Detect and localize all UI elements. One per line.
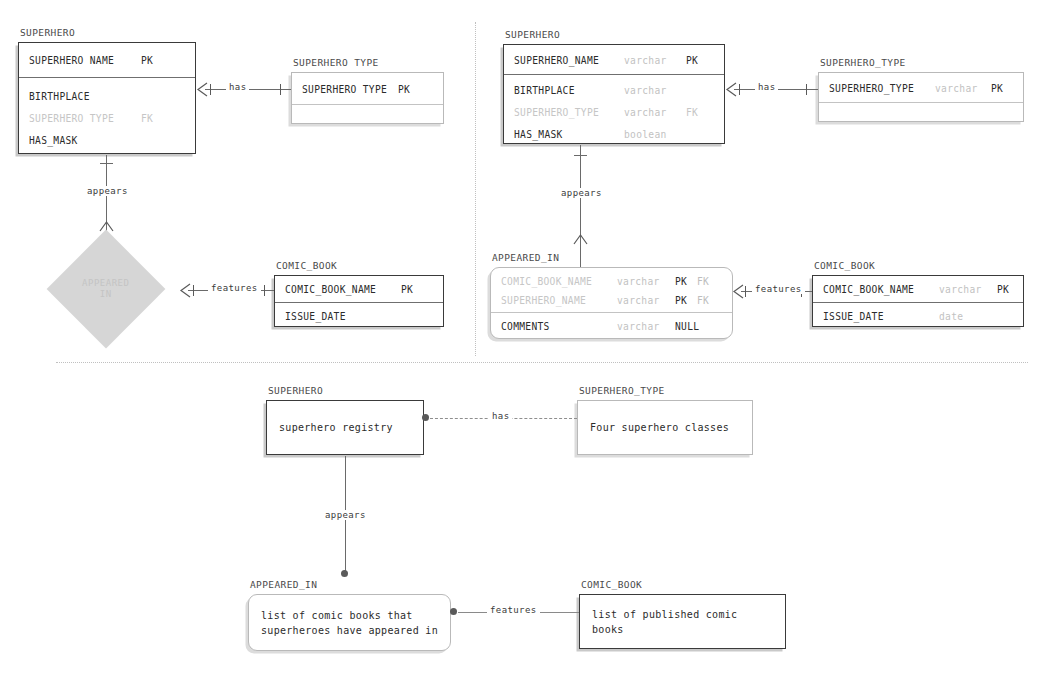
attribute-row[interactable]: SUPERHERO_NAME varchar PK FK bbox=[491, 291, 732, 310]
logical-superhero-caption: SUPERHERO bbox=[505, 29, 560, 40]
attribute-name: SUPERHERO TYPE bbox=[302, 84, 398, 95]
descriptive-appears-endpoint-dot bbox=[341, 570, 348, 577]
conceptual-features-label: features bbox=[208, 283, 261, 293]
logical-appeared-in-attr-zone: COMMENTS varchar NULL bbox=[491, 313, 732, 336]
attribute-row[interactable]: ISSUE_DATE date bbox=[813, 305, 1023, 327]
attribute-row[interactable]: COMIC_BOOK_NAME PK bbox=[275, 278, 443, 300]
descriptive-superhero-type-text: Four superhero classes bbox=[578, 401, 752, 454]
attribute-row[interactable]: BIRTHPLACE bbox=[19, 85, 195, 107]
one-tick-icon bbox=[280, 84, 281, 95]
crowfoot-icon bbox=[196, 81, 208, 98]
logical-appears-label: appears bbox=[558, 188, 605, 198]
logical-superhero-type-entity[interactable]: SUPERHERO_TYPE SUPERHERO_TYPE varchar PK bbox=[818, 72, 1024, 122]
descriptive-superhero-entity[interactable]: SUPERHERO superhero registry bbox=[266, 400, 424, 455]
attribute-row[interactable]: BIRTHPLACE varchar bbox=[504, 79, 724, 101]
descriptive-appeared-in-caption: APPEARED_IN bbox=[250, 579, 317, 590]
logical-appeared-in-caption: APPEARED_IN bbox=[492, 252, 559, 263]
attribute-row[interactable]: COMIC_BOOK_NAME varchar PK FK bbox=[491, 272, 732, 291]
conceptual-appeared-in-diamond[interactable]: APPEARED IN bbox=[47, 230, 166, 349]
conceptual-superhero-type-entity[interactable]: SUPERHERO TYPE SUPERHERO TYPE PK bbox=[291, 72, 444, 124]
attribute-row[interactable]: COMMENTS varchar NULL bbox=[491, 317, 732, 336]
one-tick-icon bbox=[745, 286, 746, 297]
conceptual-superhero-entity[interactable]: SUPERHERO SUPERHERO NAME PK BIRTHPLACE S… bbox=[18, 42, 196, 154]
descriptive-appears-label: appears bbox=[322, 510, 369, 520]
attribute-name: BIRTHPLACE bbox=[29, 91, 141, 102]
conceptual-comic-book-entity[interactable]: COMIC_BOOK COMIC_BOOK_NAME PK ISSUE_DATE bbox=[274, 275, 444, 327]
attribute-row[interactable]: SUPERHERO NAME PK bbox=[19, 49, 195, 71]
logical-superhero-entity[interactable]: SUPERHERO SUPERHERO_NAME varchar PK BIRT… bbox=[503, 44, 725, 144]
attribute-row[interactable]: ISSUE_DATE bbox=[275, 305, 443, 327]
descriptive-comic-book-text: list of published comic books bbox=[580, 595, 785, 648]
attribute-row[interactable]: HAS_MASK bbox=[19, 129, 195, 151]
attribute-name: SUPERHERO TYPE bbox=[29, 113, 141, 124]
panel-horizontal-divider bbox=[56, 362, 1028, 363]
descriptive-superhero-text: superhero registry bbox=[267, 401, 423, 454]
attribute-type: varchar bbox=[624, 85, 686, 96]
attribute-key: PK bbox=[686, 55, 698, 66]
logical-superhero-type-pk-zone: SUPERHERO_TYPE varchar PK bbox=[819, 73, 1023, 103]
attribute-name: HAS_MASK bbox=[514, 129, 624, 140]
attribute-name: SUPERHERO_TYPE bbox=[514, 107, 624, 118]
logical-appears-connector-line bbox=[580, 145, 581, 269]
one-tick-icon bbox=[574, 155, 587, 156]
attribute-type: boolean bbox=[624, 129, 686, 140]
attribute-row[interactable]: SUPERHERO_TYPE varchar FK bbox=[504, 101, 724, 123]
attribute-name: SUPERHERO_NAME bbox=[501, 295, 617, 306]
logical-superhero-pk-zone: SUPERHERO_NAME varchar PK bbox=[504, 45, 724, 75]
attribute-row[interactable]: COMIC_BOOK_NAME varchar PK bbox=[813, 278, 1023, 300]
attribute-name: COMIC_BOOK_NAME bbox=[823, 284, 939, 295]
attribute-name: BIRTHPLACE bbox=[514, 85, 624, 96]
one-tick-icon bbox=[210, 84, 211, 95]
attribute-name: COMIC_BOOK_NAME bbox=[501, 276, 617, 287]
crowfoot-icon bbox=[572, 232, 589, 245]
conceptual-comic-book-attr-zone: ISSUE_DATE bbox=[275, 303, 443, 327]
conceptual-superhero-type-caption: SUPERHERO TYPE bbox=[293, 57, 379, 68]
attribute-row[interactable]: SUPERHERO_NAME varchar PK bbox=[504, 49, 724, 71]
logical-superhero-attr-zone: BIRTHPLACE varchar SUPERHERO_TYPE varcha… bbox=[504, 75, 724, 145]
attribute-type: varchar bbox=[935, 83, 991, 94]
logical-comic-book-entity[interactable]: COMIC_BOOK COMIC_BOOK_NAME varchar PK IS… bbox=[812, 275, 1024, 327]
conceptual-comic-book-caption: COMIC_BOOK bbox=[276, 260, 337, 271]
logical-superhero-type-caption: SUPERHERO_TYPE bbox=[820, 57, 906, 68]
attribute-type: varchar bbox=[617, 321, 675, 332]
descriptive-appeared-in-text: list of comic books that superheroes hav… bbox=[249, 595, 450, 650]
attribute-name: SUPERHERO NAME bbox=[29, 55, 141, 66]
attribute-name: COMIC_BOOK_NAME bbox=[285, 284, 401, 295]
attribute-row[interactable]: SUPERHERO_TYPE varchar PK bbox=[819, 77, 1023, 99]
attribute-key: PK bbox=[398, 84, 410, 95]
attribute-row[interactable]: SUPERHERO TYPE PK bbox=[292, 78, 443, 100]
descriptive-superhero-type-caption: SUPERHERO_TYPE bbox=[579, 385, 665, 396]
descriptive-superhero-type-entity[interactable]: SUPERHERO_TYPE Four superhero classes bbox=[577, 400, 753, 455]
descriptive-has-endpoint-dot bbox=[422, 414, 429, 421]
attribute-key: FK bbox=[686, 107, 698, 118]
attribute-name: SUPERHERO_TYPE bbox=[829, 83, 935, 94]
attribute-name: ISSUE_DATE bbox=[285, 311, 401, 322]
descriptive-appeared-in-entity[interactable]: APPEARED_IN list of comic books that sup… bbox=[248, 594, 451, 651]
descriptive-has-label: has bbox=[489, 411, 512, 421]
attribute-row[interactable]: SUPERHERO TYPE FK bbox=[19, 107, 195, 129]
logical-comic-book-pk-zone: COMIC_BOOK_NAME varchar PK bbox=[813, 276, 1023, 303]
attribute-type: varchar bbox=[939, 284, 997, 295]
attribute-name: SUPERHERO_NAME bbox=[514, 55, 624, 66]
er-diagram-canvas: SUPERHERO SUPERHERO NAME PK BIRTHPLACE S… bbox=[0, 0, 1046, 690]
attribute-key: PK bbox=[997, 284, 1009, 295]
attribute-key: PK bbox=[991, 83, 1003, 94]
logical-has-label: has bbox=[755, 82, 778, 92]
attribute-name: COMMENTS bbox=[501, 321, 617, 332]
descriptive-comic-book-entity[interactable]: COMIC_BOOK list of published comic books bbox=[579, 594, 786, 649]
attribute-key-2: FK bbox=[697, 276, 709, 287]
logical-comic-book-caption: COMIC_BOOK bbox=[814, 260, 875, 271]
attribute-row[interactable]: HAS_MASK boolean bbox=[504, 123, 724, 145]
panel-vertical-divider bbox=[475, 22, 476, 356]
attribute-key: PK bbox=[675, 276, 697, 287]
conceptual-has-label: has bbox=[226, 82, 249, 92]
logical-appeared-in-pk-zone: COMIC_BOOK_NAME varchar PK FK SUPERHERO_… bbox=[491, 268, 732, 313]
crowfoot-icon bbox=[179, 282, 191, 299]
attribute-type: varchar bbox=[617, 295, 675, 306]
logical-appeared-in-entity[interactable]: APPEARED_IN COMIC_BOOK_NAME varchar PK F… bbox=[490, 267, 733, 339]
descriptive-features-endpoint-dot bbox=[450, 608, 457, 615]
descriptive-comic-book-caption: COMIC_BOOK bbox=[581, 579, 642, 590]
descriptive-superhero-caption: SUPERHERO bbox=[268, 385, 323, 396]
one-tick-icon bbox=[100, 163, 113, 164]
one-tick-icon bbox=[739, 84, 740, 95]
